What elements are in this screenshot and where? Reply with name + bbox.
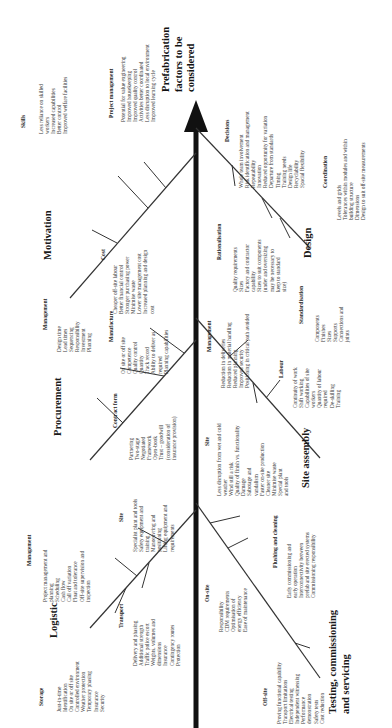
list-item: Improved learning cycle	[150, 44, 156, 122]
list-item: Ease of maintenance	[242, 588, 248, 632]
list-item: and tools	[283, 423, 289, 496]
spine-arrowhead-icon	[184, 100, 208, 132]
subcause-management-proc: Management	[42, 299, 48, 330]
list-item: Planning capabilities	[163, 330, 169, 374]
subcause-site-log: Site	[118, 513, 124, 522]
subcause-cost: Cost	[100, 249, 106, 260]
subcause-rationalisation: Rationalisation	[216, 224, 222, 260]
list-item: size)	[281, 239, 287, 292]
list-item: Security	[99, 661, 105, 712]
subcause-decisions: Decisions	[224, 120, 230, 142]
list-decisions: Whole team involvement Risk identificati…	[238, 111, 305, 188]
twig-management-log	[115, 558, 137, 576]
list-item: Commissioning responsibility	[310, 532, 316, 598]
list-management-log: Project management and planning Scheduli…	[42, 550, 91, 602]
category-site-assembly: Site assembly	[300, 428, 311, 488]
list-item: Design to suit off-site measurements	[360, 139, 366, 220]
list-item: Contingency routes	[169, 619, 175, 666]
subcause-skills: Skills	[20, 115, 26, 128]
category-design: Design	[302, 228, 313, 258]
twig-cost	[144, 162, 166, 188]
list-item: Increased planning and design	[142, 250, 148, 314]
subcause-contract-form: Contract form	[112, 393, 118, 428]
list-item: (consideration of	[165, 417, 171, 460]
list-item: Planning	[86, 321, 92, 352]
list-off-site: Proving functional capability Transport …	[276, 662, 325, 724]
list-item: Training	[335, 367, 341, 408]
list-on-site: Responsibility CDM requirements Optimisa…	[218, 588, 248, 632]
twig-coordination	[262, 198, 272, 218]
list-labour: Continuity of work Shift working Capabil…	[292, 367, 341, 408]
list-site-site: Less disruption from wet and cold weathe…	[216, 423, 289, 496]
list-item: Ability to deliver as	[150, 330, 156, 374]
list-item: Spacial flexibility	[299, 111, 305, 188]
subcause-management-site: Management	[206, 321, 212, 352]
subcause-site-site: Site	[204, 437, 210, 446]
twig-manufacture	[97, 398, 123, 423]
subcause-storage: Storage	[38, 688, 44, 706]
twig-labour	[266, 380, 280, 398]
list-standardisation: Components Finishes Sizes Supports Conne…	[314, 307, 351, 342]
subcause-manufacture: Manufacture	[108, 311, 114, 342]
list-item: Improved welfare facilities	[62, 77, 68, 134]
list-item: (under and oversizing	[262, 239, 268, 292]
list-item: Lifting equipment and	[162, 499, 168, 552]
list-project-management: Potential for value engineering Improved…	[120, 44, 157, 122]
list-item: requirements	[169, 499, 175, 552]
twig-on-site	[210, 516, 240, 523]
goal-label: Prefabrication factors to be considered	[160, 27, 198, 92]
subcause-standardisation: Standardisation	[298, 286, 304, 324]
list-rationalisation: Quality requirements Sizes Factory and c…	[232, 239, 287, 292]
list-item: joints	[344, 307, 350, 342]
twig-project-mgmt	[118, 176, 148, 208]
list-transport: Delivery and phasing Additional strength…	[132, 619, 181, 666]
list-flushing: Early commissioning and early operation …	[286, 532, 316, 598]
subcause-off-site: Off-site	[262, 688, 268, 706]
twig-flushing	[228, 538, 248, 548]
twig-skills	[92, 230, 117, 243]
list-site-log: Specialist plant and tools Safety equipm…	[132, 499, 175, 552]
category-motivation: Motivation	[42, 210, 53, 260]
list-storage: Just-in-time Identification On site or o…	[56, 661, 105, 712]
list-item: inspection	[85, 550, 91, 602]
list-cost: Cheaper off-site labour Better financial…	[112, 250, 155, 314]
list-item: cost	[149, 250, 155, 314]
subcause-coordination: Coordination	[322, 156, 328, 188]
category-testing: Testing, commissioning and servicing	[326, 610, 352, 714]
list-management-proc: Design time Lead times Sequencing Respon…	[56, 321, 93, 352]
list-coordination: Levels and grids Tolerances within modul…	[336, 139, 366, 220]
list-item: insurance provision)	[171, 417, 177, 460]
subcause-project-management: Project management	[108, 69, 114, 118]
subcause-management-log: Management	[26, 535, 32, 566]
list-management-site: Reduction in deliveries Reduction in mat…	[220, 314, 250, 388]
list-item: Off-site supervision and	[79, 550, 85, 602]
category-logistic: Logistic	[48, 602, 59, 638]
list-manufacture: On site or off site Competence Quality c…	[120, 330, 169, 374]
subcause-on-site: On-site	[204, 585, 210, 602]
list-contract-form: Partnering Two-stage Negotiated Framewor…	[128, 417, 177, 460]
category-procurement: Procurement	[52, 377, 63, 436]
list-item: Protection	[175, 619, 181, 666]
subcause-flushing: Flushing and cleaning	[272, 515, 278, 568]
list-skills: Less reliance on skilled workers Increas…	[38, 77, 68, 134]
subcause-transport: Transport	[118, 604, 124, 628]
list-item: Cost reduction	[319, 662, 325, 724]
list-item: Positioning in critical path avoided	[244, 314, 250, 388]
subcause-labour: Labour	[278, 360, 284, 378]
fishbone-diagram: Prefabrication factors to be considered …	[0, 0, 392, 728]
